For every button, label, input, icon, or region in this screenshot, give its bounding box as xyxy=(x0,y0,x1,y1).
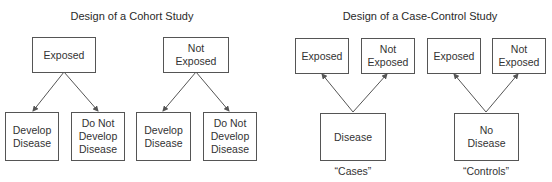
cases-caption: “Cases” xyxy=(320,165,386,177)
cohort-not-exposed-box: Not Exposed xyxy=(163,37,229,73)
cohort-no-disease-box-2: Do Not Develop Disease xyxy=(203,112,257,161)
box-label: Exposed xyxy=(434,50,475,63)
box-label: Do Not Develop Disease xyxy=(211,117,250,156)
arrow-not-exposed-to-no-develop xyxy=(196,72,229,111)
box-label: Disease xyxy=(334,131,372,144)
case-control-arrows xyxy=(322,74,518,112)
arrow-disease-to-exposed xyxy=(322,74,353,112)
arrow-not-exposed-to-develop xyxy=(163,72,196,111)
cc-exposed-box-1: Exposed xyxy=(295,38,349,74)
box-label: Not Exposed xyxy=(176,42,217,68)
arrow-no-disease-to-not-exposed xyxy=(486,74,518,112)
controls-caption: “Controls” xyxy=(446,165,526,177)
box-label: Not Exposed xyxy=(368,43,409,69)
box-label: Not Exposed xyxy=(499,43,540,69)
arrow-exposed-to-no-develop xyxy=(64,72,98,111)
cc-not-exposed-box-2: Not Exposed xyxy=(492,38,546,74)
cohort-no-disease-box-1: Do Not Develop Disease xyxy=(71,112,125,161)
cohort-title: Design of a Cohort Study xyxy=(32,10,232,22)
box-label: Develop Disease xyxy=(144,124,183,150)
arrow-disease-to-not-exposed xyxy=(353,74,387,112)
box-label: No Disease xyxy=(468,124,506,150)
cc-no-disease-box: No Disease xyxy=(454,113,519,161)
box-label: Do Not Develop Disease xyxy=(79,117,118,156)
arrow-no-disease-to-exposed xyxy=(454,74,486,112)
cc-disease-box: Disease xyxy=(320,113,386,161)
cc-exposed-box-2: Exposed xyxy=(427,38,481,74)
box-label: Exposed xyxy=(44,49,85,62)
case-control-title: Design of a Case-Control Study xyxy=(320,10,520,22)
box-label: Develop Disease xyxy=(13,124,52,150)
cohort-arrows xyxy=(33,72,229,111)
box-label: Exposed xyxy=(302,50,343,63)
cohort-develop-disease-box-1: Develop Disease xyxy=(5,112,59,161)
cc-not-exposed-box-1: Not Exposed xyxy=(361,38,415,74)
cohort-develop-disease-box-2: Develop Disease xyxy=(136,112,191,161)
cohort-exposed-box: Exposed xyxy=(32,37,96,73)
arrow-exposed-to-develop xyxy=(33,72,64,111)
